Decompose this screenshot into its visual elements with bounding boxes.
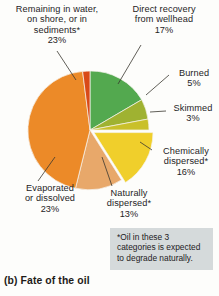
slice-label-line: Direct recovery: [112, 4, 216, 14]
slice-label-line: Remaining in water,: [2, 4, 112, 14]
slice-label-line: Burned: [171, 68, 217, 78]
slice-label-naturally-dispersed: Naturally dispersed* 13%: [96, 188, 162, 219]
slice-label-line: from wellhead: [112, 14, 216, 24]
slice-label-line: sediments*: [2, 25, 112, 35]
slice-label-burned: Burned 5%: [171, 68, 217, 89]
figure-caption: (b) Fate of the oil: [4, 275, 90, 286]
slice-label-line: dispersed*: [154, 156, 218, 166]
slice-label-line: Chemically: [154, 146, 218, 156]
slice-label-value: 16%: [154, 167, 218, 177]
slice-label-line: on shore, or in: [2, 14, 112, 24]
figure-fate-of-the-oil: Remaining in water, on shore, or in sedi…: [0, 0, 219, 296]
slice-label-chemically-dispersed: Chemically dispersed* 16%: [154, 146, 218, 177]
slice-label-remaining-in-water: Remaining in water, on shore, or in sedi…: [2, 4, 112, 46]
footnote-box: *Oil in these 3 categories is expected t…: [110, 228, 213, 270]
slice-label-line: dispersed*: [96, 198, 162, 208]
footnote-line: *Oil in these 3: [117, 232, 208, 242]
slice-label-value: 23%: [2, 35, 112, 45]
slice-label-value: 3%: [168, 113, 218, 123]
leader-line-direct: [118, 45, 141, 84]
footnote-line: to degrade naturally.: [117, 253, 208, 263]
slice-label-evaporated-or-dissolved: Evaporated or dissolved 23%: [8, 183, 92, 214]
slice-label-line: Evaporated: [8, 183, 92, 193]
slice-label-value: 5%: [171, 78, 217, 88]
slice-label-value: 23%: [8, 204, 92, 214]
leader-line-skimmed: [150, 111, 166, 112]
slice-label-skimmed: Skimmed 3%: [168, 103, 218, 124]
leader-line-burned: [146, 75, 169, 95]
slice-label-line: Naturally: [96, 188, 162, 198]
slice-label-value: 13%: [96, 209, 162, 219]
slice-label-direct-recovery: Direct recovery from wellhead 17%: [112, 4, 216, 35]
slice-label-line: or dissolved: [8, 193, 92, 203]
slice-label-value: 17%: [112, 25, 216, 35]
footnote-line: categories is expected: [117, 242, 208, 252]
slice-label-line: Skimmed: [168, 103, 218, 113]
